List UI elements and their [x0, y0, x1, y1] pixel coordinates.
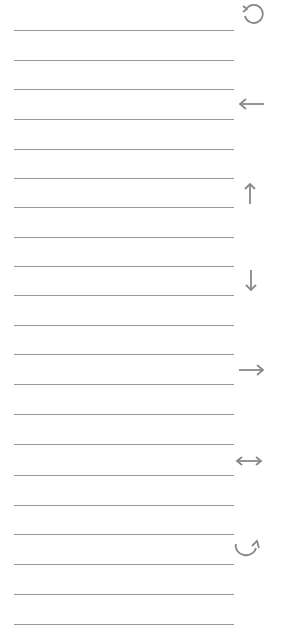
ruled-line — [14, 178, 234, 179]
ruled-line — [14, 207, 234, 208]
ruled-line — [14, 475, 234, 476]
ruled-line — [14, 534, 234, 535]
arrow-right-icon[interactable] — [236, 358, 266, 382]
ruled-line — [14, 444, 234, 445]
ruled-line — [14, 119, 234, 120]
ruled-line — [14, 384, 234, 385]
ruled-line — [14, 505, 234, 506]
arrow-up-icon[interactable] — [235, 181, 265, 205]
ruled-line — [14, 266, 234, 267]
ruled-line — [14, 325, 234, 326]
ruled-line — [14, 414, 234, 415]
rotate-clockwise-icon[interactable] — [233, 536, 263, 560]
arrow-down-icon[interactable] — [236, 269, 266, 293]
ruled-line — [14, 624, 234, 625]
ruled-line — [14, 354, 234, 355]
ruled-line — [14, 237, 234, 238]
arrow-left-right-icon[interactable] — [234, 449, 264, 473]
ruled-line — [14, 594, 234, 595]
arrow-left-icon[interactable] — [237, 92, 267, 116]
ruled-line — [14, 30, 234, 31]
ruled-line — [14, 564, 234, 565]
ruled-line — [14, 295, 234, 296]
ruled-line — [14, 149, 234, 150]
ruled-line — [14, 60, 234, 61]
ruled-line — [14, 89, 234, 90]
rotate-counterclockwise-icon[interactable] — [237, 2, 267, 26]
